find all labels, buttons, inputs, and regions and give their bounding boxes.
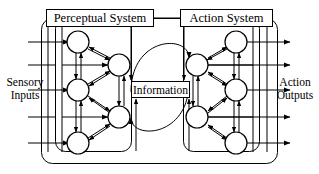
- perceptual-system-label-box: Perceptual System: [46, 9, 154, 27]
- edge-a4-to-a5: [208, 127, 227, 140]
- information-label: Information: [133, 84, 188, 96]
- action-outputs-line-2: Outputs: [272, 89, 318, 102]
- perceptual-node-1: [67, 31, 89, 53]
- edge-p2-to-p1: [89, 47, 110, 58]
- edge-a4-to-a3: [208, 98, 227, 113]
- edge-a2-to-a1: [208, 47, 227, 58]
- perceptual-node-4: [108, 106, 130, 128]
- edge-p5-to-p4: [88, 124, 110, 138]
- action-nodes-group: [186, 31, 247, 154]
- edge-a5-to-a4: [208, 125, 227, 138]
- edge-p4-to-p5: [89, 126, 110, 140]
- action-system-label: Action System: [190, 11, 264, 26]
- edge-a3-to-a2: [208, 72, 227, 84]
- edge-a2-to-a3: [208, 74, 227, 86]
- edge-p3-to-p4: [88, 96, 110, 111]
- perceptual-nodes-group: [67, 31, 130, 154]
- action-node-5: [225, 132, 247, 154]
- information-label-box: Information: [131, 81, 190, 98]
- perceptual-node-2: [108, 54, 130, 76]
- edge-a3-to-a4: [208, 96, 227, 111]
- action-outputs-label: Action Outputs: [272, 76, 318, 102]
- perceptual-subsystem-boundary: [56, 19, 132, 152]
- edge-p3-to-p2: [88, 71, 110, 84]
- edge-p2-to-p3: [89, 73, 110, 86]
- perceptual-system-label: Perceptual System: [54, 11, 147, 26]
- edge-p1-to-p2: [88, 49, 110, 60]
- perceptual-node-5: [67, 132, 89, 154]
- sensory-inputs-line-1: Sensory: [3, 76, 47, 89]
- action-system-label-box: Action System: [180, 9, 273, 27]
- action-node-4: [186, 106, 208, 128]
- action-node-3: [225, 79, 247, 101]
- action-subsystem-boundary: [184, 19, 260, 152]
- diagram-page: Perceptual System Action System Informat…: [0, 0, 319, 174]
- sensory-inputs-label: Sensory Inputs: [3, 76, 47, 102]
- perceptual-node-3: [67, 79, 89, 101]
- sensory-inputs-line-2: Inputs: [3, 89, 47, 102]
- action-outputs-line-1: Action: [272, 76, 318, 89]
- edge-a1-to-a2: [207, 49, 227, 60]
- action-node-1: [225, 31, 247, 53]
- edge-p4-to-p3: [89, 98, 110, 113]
- action-node-2: [186, 54, 208, 76]
